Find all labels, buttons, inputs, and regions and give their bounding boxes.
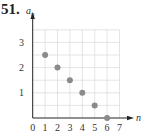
y-tick-label: 3 [19,37,24,48]
x-tick-label: 1 [43,122,48,133]
y-axis-label: an [26,5,35,18]
sequence-plot: an n 01234567 123 [0,0,148,134]
x-tick-label: 6 [105,122,110,133]
data-point [79,90,85,96]
data-points [42,52,110,121]
x-tick-label: 5 [92,122,97,133]
data-point [104,115,110,121]
x-axis-arrow-icon [127,116,134,120]
x-axis-label: n [136,112,141,123]
data-point [55,65,61,71]
x-tick-label: 0 [30,122,35,133]
x-tick-label: 3 [67,122,72,133]
x-tick-label: 7 [117,122,122,133]
data-point [67,77,73,83]
y-tick-labels: 123 [19,37,24,98]
x-tick-label: 2 [55,122,60,133]
grid [33,30,120,118]
y-tick-label: 2 [19,62,24,73]
data-point [42,52,48,58]
data-point [92,102,98,108]
x-tick-label: 4 [80,122,85,133]
x-tick-labels: 01234567 [30,122,122,133]
y-tick-label: 1 [19,87,24,98]
